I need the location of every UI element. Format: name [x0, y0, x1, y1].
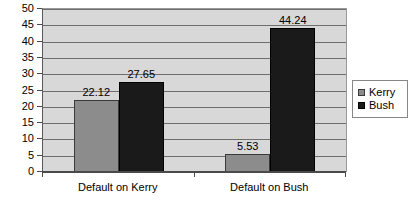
y-axis-tick-label: 30: [22, 68, 34, 79]
legend-label: Bush: [369, 100, 394, 111]
bar-kerry-0: [74, 100, 119, 172]
x-axis-tick-mark: [42, 172, 43, 177]
bar-kerry-1: [225, 154, 270, 172]
bar-value-label: 44.24: [279, 15, 307, 26]
x-axis-tick-mark: [194, 172, 195, 177]
x-axis-category-label: Default on Bush: [230, 182, 308, 193]
y-axis-tick-label: 35: [22, 51, 34, 62]
y-axis-tick-label: 40: [22, 35, 34, 46]
bars-layer: 22.1227.655.5344.24: [43, 9, 346, 172]
x-axis-tick-mark: [345, 172, 346, 177]
y-axis-tick-label: 25: [22, 84, 34, 95]
legend: KerryBush: [352, 80, 408, 118]
y-axis-tick-label: 50: [22, 3, 34, 14]
legend-swatch-icon: [358, 102, 365, 109]
legend-item-bush[interactable]: Bush: [358, 100, 403, 111]
bar-bush-0: [119, 82, 164, 172]
x-axis-category-label: Default on Kerry: [78, 182, 157, 193]
plot-area: 22.1227.655.5344.24: [42, 8, 347, 172]
y-axis-tick-label: 15: [22, 117, 34, 128]
y-axis-tick-label: 5: [28, 149, 34, 160]
y-axis-tick-label: 20: [22, 100, 34, 111]
y-axis-tick-label: 0: [28, 166, 34, 177]
legend-swatch-icon: [358, 89, 365, 96]
bar-value-label: 27.65: [127, 69, 155, 80]
bar-value-label: 22.12: [82, 87, 110, 98]
bar-bush-1: [270, 28, 315, 172]
y-axis: 05101520253035404550: [0, 0, 42, 179]
legend-label: Kerry: [369, 87, 395, 98]
bar-chart: 05101520253035404550 22.1227.655.5344.24…: [0, 0, 414, 208]
legend-item-kerry[interactable]: Kerry: [358, 87, 403, 98]
y-axis-tick-label: 45: [22, 19, 34, 30]
bar-value-label: 5.53: [237, 141, 258, 152]
y-axis-tick-label: 10: [22, 133, 34, 144]
gridline: [43, 172, 346, 173]
